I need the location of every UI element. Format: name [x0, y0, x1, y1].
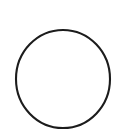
circle-shape[interactable]: [16, 30, 110, 128]
circle-outline-svg: [0, 0, 124, 140]
drawing-canvas: [0, 0, 124, 140]
